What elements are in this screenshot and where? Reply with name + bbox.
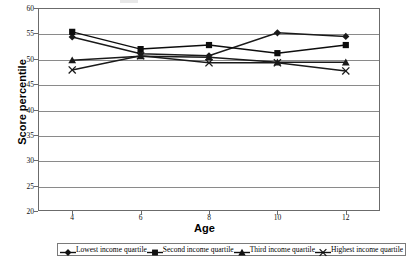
legend-label: Highest income quartile xyxy=(331,244,403,255)
x-tick-mark xyxy=(277,211,278,215)
data-point-diamond xyxy=(274,29,281,36)
y-tick-label: 45 xyxy=(4,80,34,89)
y-tick-label: 20 xyxy=(4,207,34,216)
legend-entry[interactable]: Third income quartile xyxy=(234,244,315,255)
legend-marker-diamond-icon xyxy=(60,244,76,255)
legend-label: Lowest income quartile xyxy=(76,244,147,255)
x-axis-title: Age xyxy=(0,222,409,234)
data-point-square xyxy=(206,42,212,48)
series-layer xyxy=(38,8,380,211)
data-point-square xyxy=(343,42,349,48)
y-tick-label: 60 xyxy=(4,4,34,13)
y-tick-label: 25 xyxy=(4,182,34,191)
y-tick-label: 55 xyxy=(4,29,34,38)
legend-entry[interactable]: Second income quartile xyxy=(147,244,234,255)
y-tick-label: 50 xyxy=(4,55,34,64)
legend-marker-triangle-icon xyxy=(234,244,250,255)
data-point-square xyxy=(274,50,280,56)
y-tick-label: 40 xyxy=(4,106,34,115)
legend-label: Second income quartile xyxy=(163,244,234,255)
legend-entry[interactable]: Lowest income quartile xyxy=(60,244,147,255)
legend-marker-square-icon xyxy=(147,244,163,255)
x-tick-mark xyxy=(141,211,142,215)
chart-legend: Lowest income quartileSecond income quar… xyxy=(57,243,406,256)
x-tick-mark xyxy=(72,211,73,215)
y-tick-label: 30 xyxy=(4,156,34,165)
y-tick-label: 35 xyxy=(4,131,34,140)
data-point-diamond xyxy=(342,33,349,40)
scan-artifact xyxy=(120,0,138,3)
x-tick-mark xyxy=(346,211,347,215)
data-point-square xyxy=(138,46,144,52)
legend-marker-x-icon xyxy=(315,244,331,255)
y-tick-mark xyxy=(34,211,38,212)
legend-label: Third income quartile xyxy=(250,244,315,255)
data-point-square xyxy=(69,29,75,35)
line-chart: Score percentile Age 202530354045505560 … xyxy=(0,0,409,260)
x-tick-mark xyxy=(209,211,210,215)
legend-entry[interactable]: Highest income quartile xyxy=(315,244,403,255)
